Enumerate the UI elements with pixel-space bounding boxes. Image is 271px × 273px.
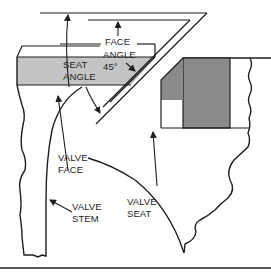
valve-face-label-line2: FACE (58, 164, 88, 176)
valve-stem-label: VALVE STEM (72, 201, 102, 225)
face-angle-label-line3: 45° (103, 61, 136, 73)
valve-diagram (0, 0, 271, 273)
valve-seat-label-line1: VALVE (127, 196, 157, 208)
seat-angle-label-line1: SEAT (63, 59, 96, 71)
valve-face-label: VALVE FACE (58, 152, 88, 176)
valve-face-label-line1: VALVE (58, 152, 88, 164)
valve-seat-insert-bevel (161, 58, 183, 100)
face-angle-label-line1: FACE (105, 36, 130, 48)
valve-stem-label-line2: STEM (72, 213, 102, 225)
valve-seat-label-line2: SEAT (127, 208, 157, 220)
face-angle-label: FACE (104, 36, 131, 48)
valve-seat-insert (183, 58, 230, 128)
seat-angle-label: SEAT ANGLE (63, 59, 96, 83)
valve-seat-label: VALVE SEAT (127, 196, 157, 220)
face-angle-label-line2: ANGLE (103, 49, 136, 61)
face-angle-label-2: ANGLE 45° (103, 49, 136, 73)
valve-stem-label-line1: VALVE (72, 201, 102, 213)
seat-angle-label-line2: ANGLE (63, 71, 96, 83)
